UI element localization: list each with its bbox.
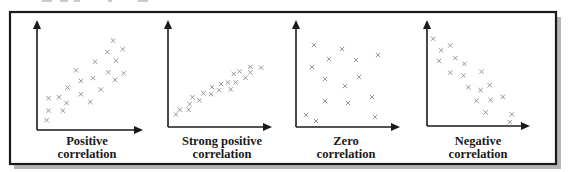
- panel-label-line: correlation: [317, 147, 376, 161]
- panel-label-line: correlation: [58, 147, 117, 161]
- panel-label-line: Zero: [333, 134, 358, 148]
- correlation-diagram: PositivecorrelationStrong positivecorrel…: [0, 0, 568, 172]
- panel-label-line: correlation: [449, 147, 508, 161]
- panel-label-line: Positive: [66, 134, 108, 148]
- panel-label-line: Strong positive: [182, 134, 262, 148]
- clipped-heading-fragment: [42, 0, 148, 2]
- panel-label-line: Negative: [455, 134, 502, 148]
- panel-label-line: correlation: [193, 147, 252, 161]
